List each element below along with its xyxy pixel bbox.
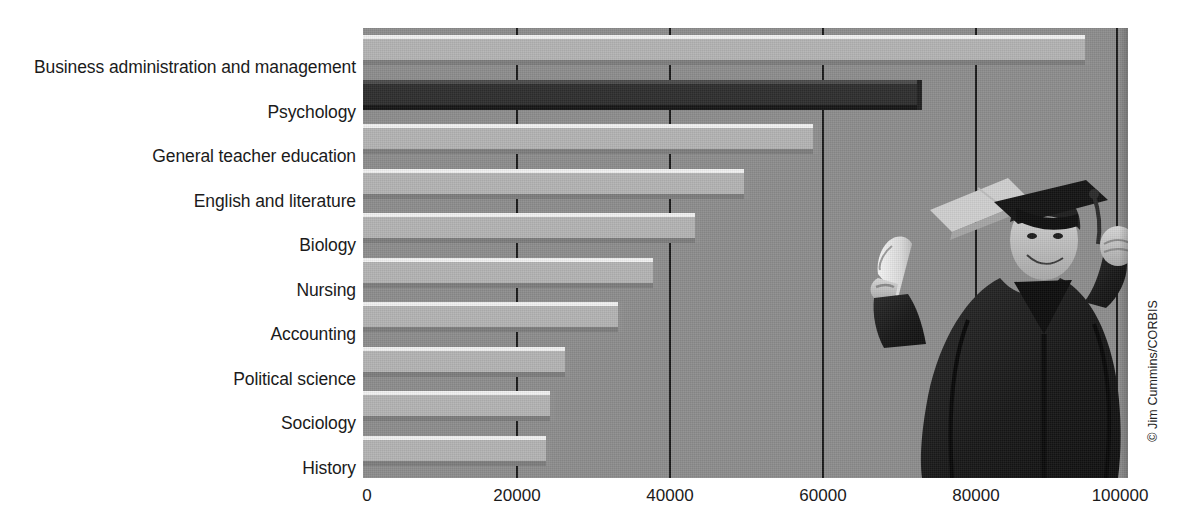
bar-psychology — [363, 80, 922, 110]
bar-highlight-edge — [363, 436, 551, 440]
category-label-general-teacher-education: General teacher education — [0, 148, 356, 166]
bar-highlight-edge — [363, 347, 570, 351]
diploma-arm — [871, 237, 926, 348]
bar-shadow-edge — [363, 327, 623, 332]
bar-sociology — [363, 391, 555, 421]
bar-shadow-edge — [363, 60, 1090, 65]
bar-shadow-edge — [363, 461, 551, 466]
graduation-cap — [994, 180, 1108, 244]
xtick-label-80000: 80000 — [952, 487, 999, 504]
bar-end-cap — [653, 258, 658, 288]
bar-accounting — [363, 302, 623, 332]
bar-highlight-edge — [363, 169, 749, 173]
category-label-history: History — [0, 460, 356, 478]
photo-credit: © Jim Cummins/CORBIS — [1146, 300, 1160, 442]
bar-general-teacher-education — [363, 124, 818, 154]
bar-highlight-edge — [363, 124, 818, 128]
bar-business-administration-and-management — [363, 35, 1090, 65]
bar-shadow-edge — [363, 149, 818, 154]
bar-political-science — [363, 347, 570, 377]
bar-end-cap — [550, 391, 555, 421]
bar-end-cap — [813, 124, 818, 154]
bar-shadow-edge — [363, 372, 570, 377]
bar-shadow-edge — [363, 416, 555, 421]
bar-highlight-edge — [363, 80, 922, 84]
gridline-80000 — [975, 28, 977, 478]
bar-end-cap — [565, 347, 570, 377]
bar-highlight-edge — [363, 35, 1090, 39]
xtick-label-60000: 60000 — [799, 487, 846, 504]
bar-chart: Business administration and management P… — [0, 0, 1196, 531]
xtick-label-0: 0 — [362, 487, 371, 504]
category-label-psychology: Psychology — [0, 104, 356, 122]
bar-highlight-edge — [363, 391, 555, 395]
bar-shadow-edge — [363, 238, 700, 243]
bar-biology — [363, 213, 700, 243]
bar-highlight-edge — [363, 302, 623, 306]
bar-end-cap — [1085, 35, 1090, 65]
bar-english-and-literature — [363, 169, 749, 199]
bar-end-cap — [546, 436, 551, 466]
bar-shadow-edge — [363, 283, 658, 288]
bar-end-cap — [695, 213, 700, 243]
graduate-photo — [818, 148, 1128, 478]
bar-highlight-edge — [363, 258, 658, 262]
bar-end-cap — [917, 80, 922, 110]
bar-end-cap — [618, 302, 623, 332]
category-label-political-science: Political science — [0, 371, 356, 389]
xtick-label-100000: 100000 — [1092, 487, 1149, 504]
gridline-100000 — [1116, 28, 1118, 478]
xtick-label-40000: 40000 — [646, 487, 693, 504]
bar-nursing — [363, 258, 658, 288]
xtick-label-20000: 20000 — [493, 487, 540, 504]
category-label-business-administration-and-management: Business administration and management — [0, 59, 356, 77]
graduation-gown — [921, 278, 1121, 478]
bar-shadow-edge — [363, 194, 749, 199]
category-axis: Business administration and management P… — [0, 28, 356, 478]
category-label-accounting: Accounting — [0, 326, 356, 344]
bar-end-cap — [744, 169, 749, 199]
graduate-head — [1010, 192, 1080, 280]
bar-history — [363, 436, 551, 466]
bar-highlight-edge — [363, 213, 700, 217]
plot-area — [363, 28, 1128, 478]
category-label-sociology: Sociology — [0, 415, 356, 433]
mortarboard-cap — [930, 178, 1030, 240]
panel-right-shadow — [1119, 28, 1128, 478]
category-label-english-and-literature: English and literature — [0, 193, 356, 211]
x-axis: 0 20000 40000 60000 80000 100000 — [363, 478, 1128, 518]
category-label-biology: Biology — [0, 237, 356, 255]
bar-shadow-edge — [363, 105, 922, 110]
category-label-nursing: Nursing — [0, 282, 356, 300]
